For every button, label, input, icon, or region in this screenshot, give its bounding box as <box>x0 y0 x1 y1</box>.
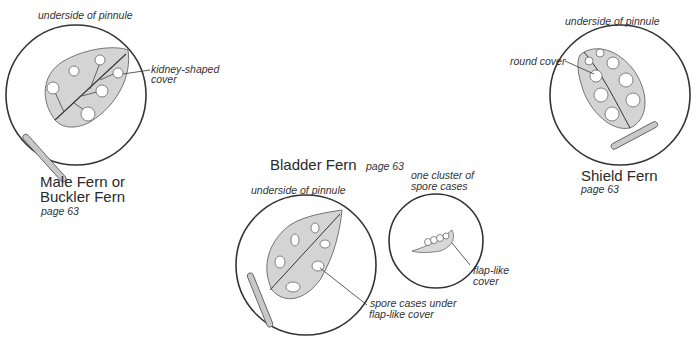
cluster-callout-2: cover <box>473 276 499 287</box>
bladder-fern-caption: underside of pinnule <box>251 185 346 196</box>
bladder-fern-illustration <box>236 195 376 335</box>
cluster-caption-2: spore cases <box>411 181 468 192</box>
shield-fern-title: Shield Fern <box>581 168 658 184</box>
male-fern-page: page 63 <box>41 205 79 217</box>
bladder-fern-page: page 63 <box>366 160 404 172</box>
shield-fern-callout: round cover <box>510 56 565 67</box>
male-fern-caption: underside of pinnule <box>38 10 133 21</box>
male-fern-title-2: Buckler Fern <box>40 189 125 205</box>
bladder-fern-callout-2: flap-like cover <box>369 309 434 320</box>
shield-fern-page: page 63 <box>581 183 619 195</box>
shield-fern-illustration <box>550 25 690 165</box>
male-fern-callout-2: cover <box>151 74 177 85</box>
spore-cluster-illustration <box>389 194 483 288</box>
bladder-fern-title: Bladder Fern <box>270 157 357 173</box>
shield-fern-caption: underside of pinnule <box>565 16 660 27</box>
male-fern-illustration <box>6 25 150 183</box>
